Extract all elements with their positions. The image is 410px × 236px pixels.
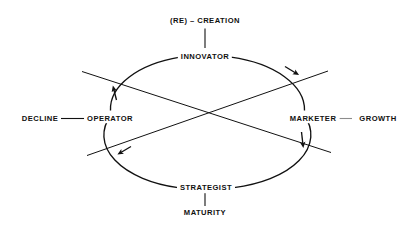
arc-innovator-to-marketer — [231, 57, 305, 110]
phase-label-growth: GROWTH — [356, 114, 399, 124]
phase-label-decline: DECLINE — [19, 114, 61, 124]
phase-label-maturity: MATURITY — [181, 208, 229, 218]
diagonal-line-nw-se — [82, 72, 331, 153]
role-label-innovator: INNOVATOR — [178, 52, 232, 62]
diagram-canvas: INNOVATOR MARKETER STRATEGIST OPERATOR (… — [0, 0, 410, 236]
flow-arrowheads — [114, 67, 303, 154]
phase-label-re-creation: (RE) – CREATION — [167, 16, 243, 26]
arc-strategist-to-operator — [104, 116, 178, 188]
role-label-strategist: STRATEGIST — [177, 183, 235, 193]
arrowhead-innovator-to-marketer — [285, 67, 297, 74]
diagram-graphics — [0, 0, 410, 236]
role-label-marketer: MARKETER — [287, 114, 340, 124]
arc-marketer-to-strategist — [234, 116, 311, 188]
arrowhead-strategist-to-operator — [120, 147, 131, 154]
role-label-operator: OPERATOR — [84, 114, 136, 124]
